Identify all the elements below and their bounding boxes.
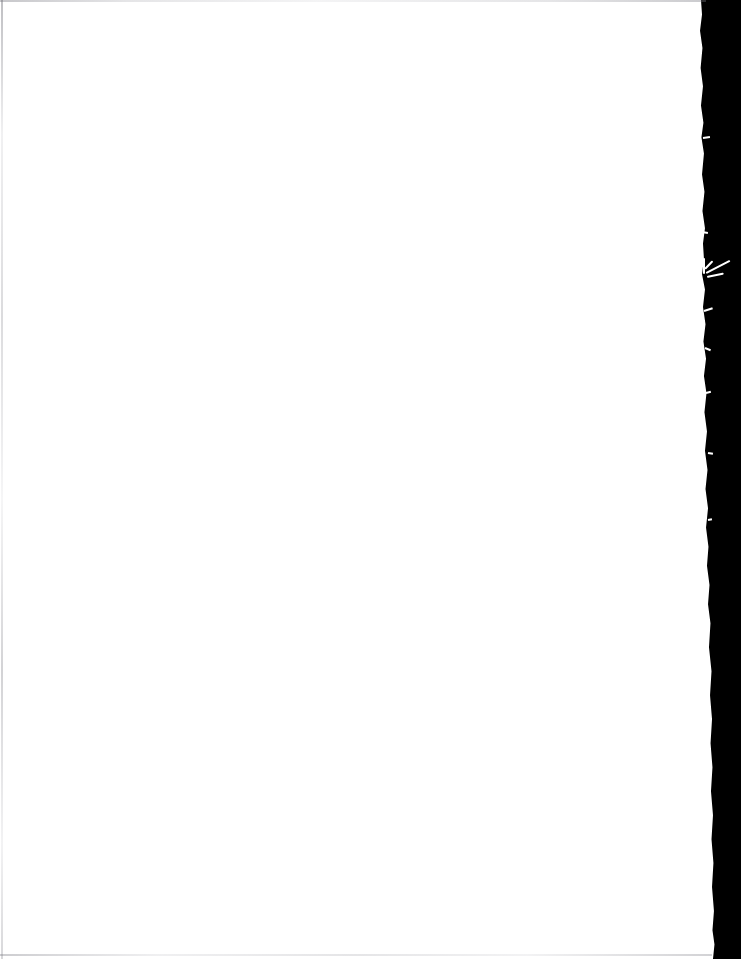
scanned-page-image bbox=[0, 0, 741, 959]
page-content-area bbox=[0, 0, 700, 959]
page-edge-hairline-left bbox=[1, 0, 3, 959]
page-edge-hairline-top bbox=[0, 0, 706, 2]
page-edge-hairline-bottom bbox=[0, 954, 712, 956]
